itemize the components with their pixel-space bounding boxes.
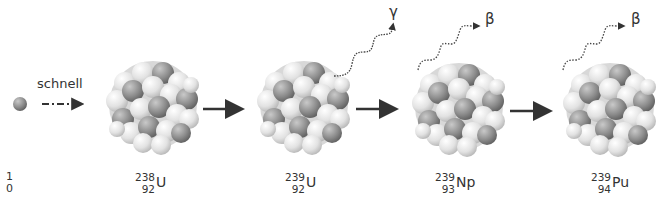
beta-symbol-1: β (485, 10, 495, 28)
mass-number: 239 (591, 171, 611, 183)
element-symbol: U (156, 175, 166, 189)
gamma-symbol: γ (389, 3, 398, 21)
nuclide-label-np239: 23993Np (435, 171, 475, 195)
atomic-number: 92 (285, 183, 305, 195)
mass-number: 238 (135, 171, 155, 183)
nucleus-pu239 (563, 63, 656, 157)
element-symbol: Pu (612, 175, 629, 189)
atomic-number: 92 (135, 183, 155, 195)
diagram-canvas (0, 0, 665, 209)
atomic-number: 93 (435, 183, 455, 195)
nucleus-u238 (106, 61, 199, 155)
beta-path-1 (418, 26, 478, 70)
nuclide-label-u239: 23992U (285, 171, 316, 195)
mass-number: 239 (285, 171, 305, 183)
beta-symbol-2: β (631, 10, 641, 28)
nucleus-np239 (412, 63, 505, 157)
gamma-ray-path (334, 25, 393, 76)
element-symbol: Np (456, 175, 475, 189)
nuclide-label-pu239: 23994Pu (591, 171, 629, 195)
neutron-particle (13, 97, 27, 111)
element-symbol: U (306, 175, 316, 189)
nucleus-u239 (257, 61, 350, 155)
neutron-notation: 1 0 (6, 171, 13, 195)
nuclide-label-u238: 23892U (135, 171, 166, 195)
mass-number: 239 (435, 171, 455, 183)
neutron-charge: 0 (6, 183, 13, 195)
atomic-number: 94 (591, 183, 611, 195)
fast-label: schnell (37, 76, 83, 91)
